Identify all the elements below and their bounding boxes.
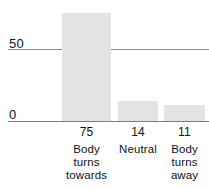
category-label-1: Body turns towards xyxy=(57,143,116,182)
category-label-2: Neutral xyxy=(116,143,160,156)
category-axis-labels: 75 Body turns towards 14 Neutral 11 Body… xyxy=(0,125,209,189)
category-group-1: 75 Body turns towards xyxy=(57,125,116,182)
bar-value-label-2: 14 xyxy=(116,125,160,140)
bar-chart: 50 0 75 Body turns towards 14 Neutral 11… xyxy=(0,0,209,189)
axis-baseline xyxy=(8,121,209,122)
bar-body-turns-towards xyxy=(62,13,111,121)
plot-area: 50 0 xyxy=(0,0,209,125)
category-label-3: Body turns away xyxy=(160,143,209,182)
category-group-3: 11 Body turns away xyxy=(160,125,209,182)
y-axis-tick-label-50: 50 xyxy=(9,37,24,50)
category-group-2: 14 Neutral xyxy=(116,125,160,156)
bar-body-turns-away xyxy=(164,105,205,121)
bar-neutral xyxy=(118,101,158,121)
bar-value-label-1: 75 xyxy=(57,125,116,140)
y-axis-tick-label-0: 0 xyxy=(9,108,16,121)
bar-value-label-3: 11 xyxy=(160,125,209,140)
